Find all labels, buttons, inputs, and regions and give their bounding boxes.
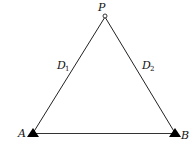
point-p-marker [103,14,107,18]
label-a: A [17,127,26,140]
edge-b-p [105,17,175,133]
point-a-marker [27,128,39,137]
label-d1-subscript: 1 [65,65,69,73]
edge-a-p [33,17,105,133]
label-b: B [180,129,189,142]
triangle-diagram: P A B D 1 D 2 [0,0,196,155]
label-p: P [97,1,106,14]
point-b-marker [169,128,181,137]
label-d2-subscript: 2 [150,65,154,73]
